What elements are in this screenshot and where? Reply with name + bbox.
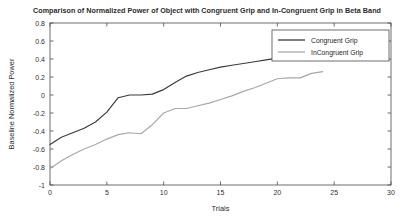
chart-figure: Comparison of Normalized Power of Object…	[0, 0, 414, 223]
x-tick-label: 20	[273, 189, 281, 196]
series-line-incongruent-grip	[50, 72, 323, 169]
y-tick-label: -0.4	[33, 128, 45, 135]
y-tick-label: 0.8	[35, 20, 45, 27]
y-tick-label: -0.6	[33, 146, 45, 153]
y-tick-label: 0.4	[35, 56, 45, 63]
legend-label-congruent: Congruent Grip	[311, 37, 358, 45]
x-tick-label: 0	[48, 189, 52, 196]
y-tick-label: 0.6	[35, 38, 45, 45]
x-tick-label: 25	[330, 189, 338, 196]
y-axis-title: Baseline Normalized Power	[7, 58, 16, 149]
x-tick-label: 5	[105, 189, 109, 196]
x-tick-label: 10	[160, 189, 168, 196]
x-axis-title: Trials	[212, 204, 230, 213]
x-tick-label: 15	[217, 189, 225, 196]
legend[interactable]: Congruent Grip InCongruent Grip	[272, 30, 389, 61]
legend-label-incongruent: InCongruent Grip	[311, 49, 363, 57]
y-tick-label: 0	[41, 92, 45, 99]
y-tick-label: -0.8	[33, 164, 45, 171]
plot-area: 051015202530 -1-0.8-0.6-0.4-0.200.20.40.…	[0, 0, 414, 223]
y-tick-label: 0.2	[35, 74, 45, 81]
x-axis-tick-labels: 051015202530	[48, 189, 395, 196]
series-line-congruent-grip	[50, 52, 323, 145]
y-axis-tick-labels: -1-0.8-0.6-0.4-0.200.20.40.60.8	[33, 20, 45, 189]
y-tick-label: -1	[39, 182, 45, 189]
legend-box	[272, 30, 389, 61]
y-tick-label: -0.2	[33, 110, 45, 117]
x-tick-label: 30	[387, 189, 395, 196]
data-series-group	[50, 52, 323, 169]
